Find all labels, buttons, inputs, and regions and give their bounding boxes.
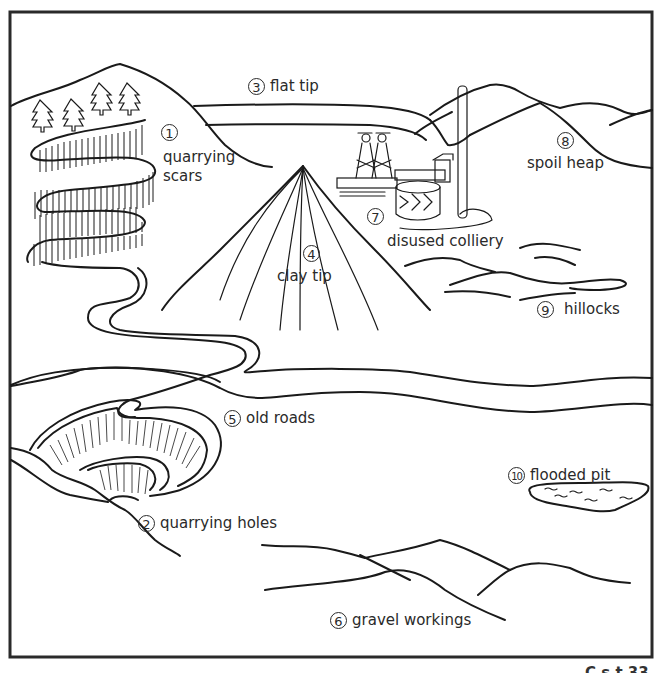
number-badge: 5 [224,410,241,427]
number-badge: 10 [508,467,525,484]
number-badge: 9 [537,301,554,318]
label-spoil-heap: spoil heap [527,155,604,172]
number-badge: 7 [367,208,384,225]
hill-back-right [430,84,652,115]
label-flooded-pit: 10flooded pit [508,467,610,484]
colliery-icon [337,86,492,230]
label-clay-tip: clay tip [277,268,332,285]
label-disused-colliery: disused colliery [387,233,504,250]
label-quarrying-holes: 2quarrying holes [138,515,277,532]
number-badge: 6 [330,612,347,629]
flat-tip-end [430,120,470,145]
label-clay-tip-number: 4 [303,245,325,262]
number-badge: 4 [303,245,320,262]
label-quarrying-scars: 1 [161,124,178,143]
number-badge: 8 [557,132,574,149]
old-road-upper [110,268,652,386]
page-footer-clipped: C s t 33 [585,664,649,673]
label-colliery-number: 7 [367,208,389,225]
label-gravel-workings: 6gravel workings [330,612,471,629]
number-badge: 2 [138,515,155,532]
hillocks [405,244,626,300]
label-flat-tip: 3flat tip [248,78,319,95]
flooded-pit [529,482,648,511]
number-badge: 3 [248,78,265,95]
far-hill [610,110,652,125]
label-old-roads: 5old roads [224,410,315,427]
old-road-left-outer [42,262,246,417]
flat-tip-top [194,105,430,121]
label-hillocks: 9hillocks [537,301,620,318]
gravel-workings [262,540,630,620]
label-spoil-heap-number: 8 [557,132,579,149]
landscape-illustration [0,0,669,673]
frame-border [10,12,652,657]
old-road-lower [11,368,652,412]
flat-tip-bottom [206,124,426,140]
quarrying-scars [27,120,155,266]
label-quarrying-scars-text: quarrying scars [163,148,235,186]
number-badge: 1 [161,124,178,141]
